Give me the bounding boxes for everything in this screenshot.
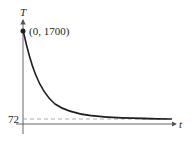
x-axis-label: t xyxy=(179,118,183,130)
decay-chart: T t (0, 1700) 72 xyxy=(0,0,193,141)
decay-curve xyxy=(23,30,172,119)
asymptote-label: 72 xyxy=(8,113,19,125)
y-axis-label: T xyxy=(20,6,27,18)
initial-point xyxy=(21,29,26,34)
point-label: (0, 1700) xyxy=(29,25,70,38)
